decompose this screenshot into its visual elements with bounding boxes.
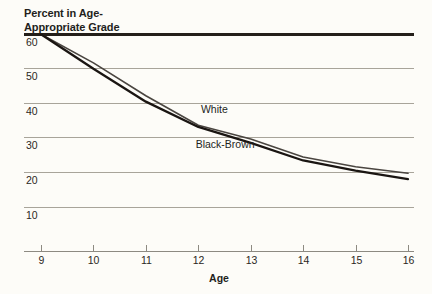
series-label-black-brown: Black-Brown bbox=[196, 138, 255, 150]
x-axis-title: Age bbox=[209, 272, 229, 284]
x-axis-tick-labels: 910111213141516 bbox=[39, 254, 415, 266]
y-tick-label-30: 30 bbox=[26, 139, 38, 151]
x-tick-label-16: 16 bbox=[403, 254, 415, 266]
series-label-white: White bbox=[201, 103, 228, 115]
y-tick-label-40: 40 bbox=[26, 105, 38, 117]
y-tick-label-60: 60 bbox=[26, 36, 38, 48]
y-axis-tick-labels: 605040302010 bbox=[26, 36, 38, 221]
x-tick-label-12: 12 bbox=[193, 254, 205, 266]
chart-canvas: 605040302010 910111213141516 WhiteBlack-… bbox=[0, 0, 432, 294]
y-tick-label-50: 50 bbox=[26, 70, 38, 82]
x-tick-label-13: 13 bbox=[246, 254, 258, 266]
x-tick-label-9: 9 bbox=[39, 254, 45, 266]
y-tick-label-20: 20 bbox=[26, 174, 38, 186]
x-tick-label-11: 11 bbox=[141, 254, 152, 266]
y-tick-label-10: 10 bbox=[26, 209, 38, 221]
x-tick-label-10: 10 bbox=[88, 254, 100, 266]
axes bbox=[24, 245, 414, 252]
x-tick-label-15: 15 bbox=[351, 254, 363, 266]
chart-figure: Percent in Age- Appropriate Grade 605040… bbox=[0, 0, 432, 294]
x-tick-label-14: 14 bbox=[298, 254, 310, 266]
